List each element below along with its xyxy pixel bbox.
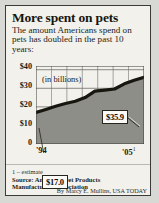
infographic-card: More spent on pets The amount Americans … [5,5,151,196]
byline: By Marcy E. Mullins, USA TODAY [57,187,147,194]
y-axis-tick-40: $40 [8,62,32,71]
chart-plot-area: $40 $30 $20 $10 0 (in billions) $35.9 $1… [6,58,151,153]
chart-subtitle: The amount Americans spend on pets has d… [12,26,146,54]
x-axis-tick-end-superscript: 1 [133,146,136,152]
x-axis-tick-start: '94 [36,146,47,155]
axis-unit-label: (in billions) [42,75,81,84]
page-title: More spent on pets [12,10,118,26]
x-axis-tick-end: '051 [122,146,136,157]
y-axis-tick-10: $10 [8,119,32,128]
callout-end-value: $35.9 [102,110,128,124]
y-axis-tick-0: 0 [8,138,32,147]
x-axis-tick-end-label: '05 [122,148,133,157]
callout-start-value: $17.0 [42,175,68,189]
y-axis-tick-20: $20 [8,100,32,109]
footnote: 1 – estimate [12,168,43,175]
footer-divider [6,164,151,165]
y-axis-tick-30: $30 [8,81,32,90]
